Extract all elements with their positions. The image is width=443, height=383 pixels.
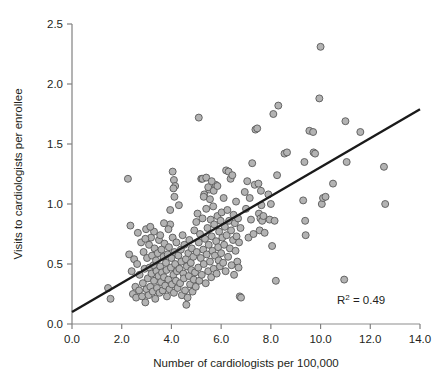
x-tick-label: 2.0 xyxy=(114,333,130,345)
data-point xyxy=(213,270,220,277)
data-point xyxy=(184,294,191,301)
data-point xyxy=(202,280,209,287)
data-point xyxy=(241,189,248,196)
data-point xyxy=(322,193,329,200)
annotation-layer: R2 = 0.49 xyxy=(337,293,385,306)
data-point xyxy=(300,197,307,204)
data-point xyxy=(208,178,215,185)
data-point xyxy=(343,159,350,166)
data-point xyxy=(128,268,135,275)
x-tick-label: 8.0 xyxy=(263,333,279,345)
data-point xyxy=(271,217,278,224)
data-point xyxy=(218,250,225,257)
data-point xyxy=(301,159,308,166)
y-tick-label: 0.5 xyxy=(47,258,63,270)
data-point xyxy=(310,129,317,136)
data-point xyxy=(214,183,221,190)
data-point xyxy=(171,193,178,200)
data-point xyxy=(225,253,232,260)
data-point xyxy=(274,172,281,179)
data-point xyxy=(195,114,202,121)
data-point xyxy=(107,295,114,302)
y-tick-label: 1.5 xyxy=(47,138,63,150)
data-point xyxy=(246,195,253,202)
data-point xyxy=(244,178,251,185)
data-point xyxy=(142,235,149,242)
data-point xyxy=(220,259,227,266)
data-point xyxy=(198,271,205,278)
data-point xyxy=(247,216,254,223)
x-tick-label: 6.0 xyxy=(213,333,229,345)
data-point xyxy=(257,187,264,194)
y-tick-label: 2.5 xyxy=(47,18,63,30)
data-point xyxy=(170,185,177,192)
chart-canvas: 0.02.04.06.08.010.012.014.00.00.51.01.52… xyxy=(0,0,443,383)
data-point xyxy=(237,225,244,232)
x-tick-label: 10.0 xyxy=(309,333,331,345)
data-point xyxy=(179,232,186,239)
r-squared-text: R2 = 0.49 xyxy=(337,293,385,306)
trend-line-layer xyxy=(72,109,420,312)
y-axis-title: Visits to cardiologists per enrollee xyxy=(12,88,24,259)
data-point xyxy=(232,247,239,254)
data-point xyxy=(382,201,389,208)
data-point xyxy=(220,195,227,202)
data-point xyxy=(380,163,387,170)
r-squared-annotation: R2 = 0.49 xyxy=(337,293,385,306)
data-point xyxy=(160,220,167,227)
y-tick-label: 2.0 xyxy=(47,78,63,90)
data-point xyxy=(142,299,149,306)
data-point xyxy=(183,301,190,308)
scatter-plot-figure: 0.02.04.06.08.010.012.014.00.00.51.01.52… xyxy=(0,0,443,383)
data-point xyxy=(173,239,180,246)
data-point xyxy=(167,207,174,214)
data-point xyxy=(316,95,323,102)
data-point xyxy=(206,258,213,265)
data-point xyxy=(270,111,277,118)
y-tick-label: 1.0 xyxy=(47,198,63,210)
data-point xyxy=(134,229,141,236)
data-point xyxy=(357,129,364,136)
data-point xyxy=(330,180,337,187)
x-tick-label: 4.0 xyxy=(163,333,179,345)
x-tick-label: 14.0 xyxy=(409,333,431,345)
data-point xyxy=(127,222,134,229)
data-point xyxy=(267,201,274,208)
data-point xyxy=(163,293,170,300)
data-point xyxy=(224,207,231,214)
data-point xyxy=(275,102,282,109)
data-point xyxy=(222,268,229,275)
data-point xyxy=(255,180,262,187)
data-point xyxy=(206,196,213,203)
y-tick-label: 0.0 xyxy=(47,318,63,330)
data-point xyxy=(236,239,243,246)
data-point xyxy=(229,172,236,179)
data-point xyxy=(165,226,172,233)
data-point xyxy=(269,243,276,250)
axis-labels-layer: 0.02.04.06.08.010.012.014.00.00.51.01.52… xyxy=(12,18,431,369)
data-point xyxy=(152,295,159,302)
x-tick-label: 0.0 xyxy=(64,333,80,345)
x-tick-label: 12.0 xyxy=(359,333,381,345)
data-point xyxy=(312,150,319,157)
regression-line xyxy=(72,109,420,312)
data-point xyxy=(182,287,189,294)
data-point xyxy=(134,261,141,268)
data-point xyxy=(341,276,348,283)
data-point xyxy=(203,205,210,212)
data-point xyxy=(235,264,242,271)
data-point xyxy=(342,118,349,125)
data-point xyxy=(284,149,291,156)
data-point xyxy=(249,160,256,167)
data-point xyxy=(272,277,279,284)
data-point xyxy=(175,202,182,209)
data-point xyxy=(317,43,324,50)
data-point xyxy=(210,203,217,210)
data-point xyxy=(302,232,309,239)
data-point xyxy=(231,271,238,278)
data-point xyxy=(254,125,261,132)
data-point xyxy=(169,168,176,175)
data-point xyxy=(228,227,235,234)
data-point xyxy=(199,215,206,222)
x-axis-title: Number of cardiologists per 100,000 xyxy=(153,357,338,369)
